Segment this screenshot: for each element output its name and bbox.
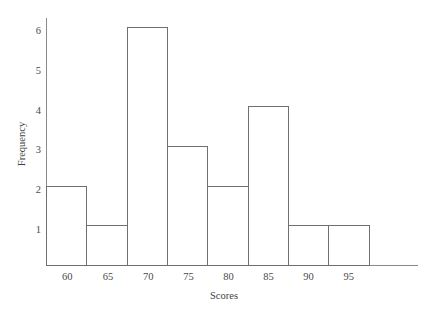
x-tick-label-60: 60 [62,271,73,282]
y-axis-title: Frequency [16,121,27,166]
y-tick-label-6: 6 [36,25,41,36]
histogram-bar [288,226,328,266]
x-axis-title: Scores [210,290,238,301]
x-tick-label-75: 75 [183,271,194,282]
histogram-chart: 1 2 3 4 5 6 60 65 70 75 80 85 90 95 Scor… [0,0,438,315]
histogram-bar [167,146,207,265]
y-tick-label-1: 1 [36,224,41,235]
y-tick-label-3: 3 [36,144,41,155]
x-tick-label-65: 65 [103,271,114,282]
x-tick-label-80: 80 [223,271,234,282]
x-tick-label-70: 70 [143,271,154,282]
histogram-bar [47,186,87,266]
x-tick-label-95: 95 [344,271,355,282]
histogram-bar [87,226,127,266]
y-tick-label-2: 2 [36,184,41,195]
histogram-svg: 1 2 3 4 5 6 60 65 70 75 80 85 90 95 Scor… [0,0,438,315]
y-tick-label-5: 5 [36,65,41,76]
y-tick-label-4: 4 [36,105,42,116]
histogram-bar [329,226,369,266]
x-tick-label-90: 90 [303,271,314,282]
histogram-bar [208,186,248,266]
histogram-bar [127,27,167,266]
histogram-bar [248,107,288,266]
x-tick-label-85: 85 [263,271,274,282]
